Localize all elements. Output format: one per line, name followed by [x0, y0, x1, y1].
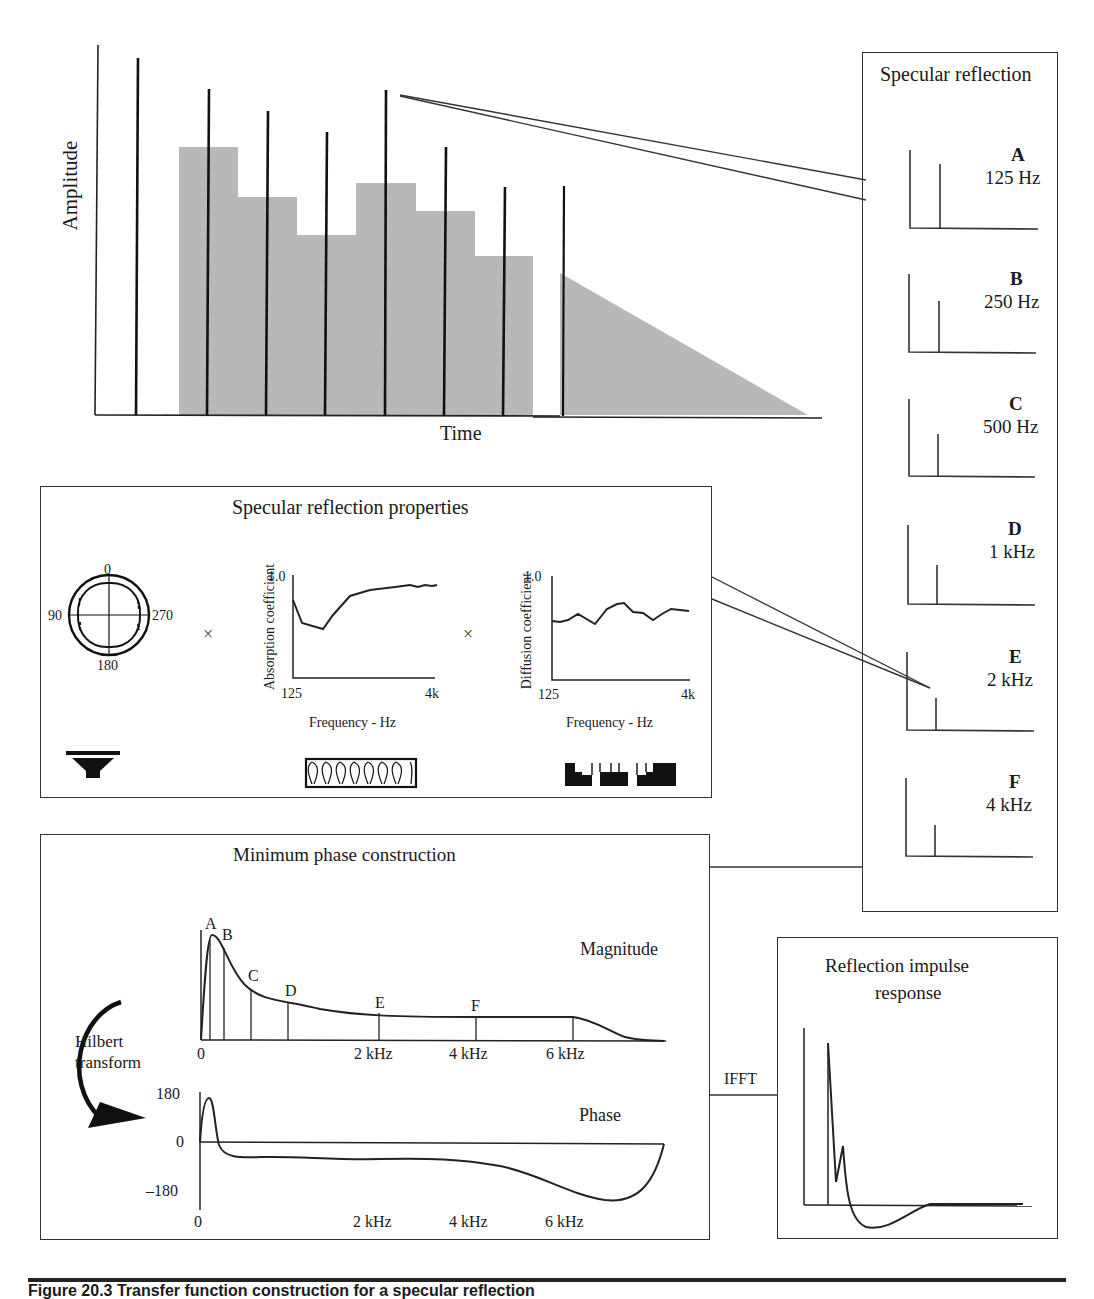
diffusion-x-max: 4k [681, 688, 695, 702]
polar-label-180: 180 [97, 659, 118, 673]
absorption-x-min: 125 [281, 687, 302, 701]
band-freq-e: 2 kHz [987, 670, 1033, 689]
marker-c: C [248, 968, 259, 984]
marker-d: D [285, 983, 297, 999]
phase-tick-6k: 6 kHz [545, 1214, 584, 1230]
multiply-sign-2: × [463, 625, 473, 643]
phase-tick-2k: 2 kHz [353, 1214, 392, 1230]
band-letter-e: E [1009, 647, 1022, 666]
band-freq-b: 250 Hz [984, 292, 1039, 311]
magnitude-label: Magnitude [580, 940, 658, 958]
phase-y-180: 180 [156, 1086, 180, 1102]
energy-envelope [179, 147, 533, 415]
mag-tick-2k: 2 kHz [354, 1046, 393, 1062]
absorption-x-max: 4k [425, 687, 439, 701]
phase-tick-0: 0 [194, 1214, 202, 1230]
mag-tick-0: 0 [197, 1046, 205, 1062]
band-freq-c: 500 Hz [983, 417, 1038, 436]
zoom-connector [400, 95, 866, 200]
hilbert-label-1: Hilbert [75, 1033, 123, 1050]
specular-properties-panel [40, 486, 712, 798]
marker-a: A [205, 916, 217, 932]
band-letter-b: B [1010, 269, 1023, 288]
time-plot [95, 45, 822, 418]
properties-title: Specular reflection properties [232, 495, 469, 519]
polar-label-90: 90 [48, 609, 62, 623]
band-freq-d: 1 kHz [989, 542, 1035, 561]
hilbert-label-2: transform [75, 1054, 141, 1071]
ifft-label: IFFT [724, 1071, 757, 1087]
phase-y-0: 0 [176, 1134, 184, 1150]
band-freq-f: 4 kHz [986, 795, 1032, 814]
diffusion-y-max: 1.0 [524, 570, 542, 584]
marker-f: F [471, 998, 480, 1014]
specular-reflection-title: Specular reflection [880, 62, 1032, 86]
band-letter-c: C [1009, 394, 1023, 413]
phase-y-neg180: –180 [146, 1183, 178, 1199]
absorption-y-max: 1.0 [268, 570, 286, 584]
impulse-response-title-1: Reflection impulse [825, 955, 969, 978]
phase-label: Phase [579, 1106, 621, 1124]
band-freq-a: 125 Hz [985, 168, 1040, 187]
band-letter-a: A [1011, 145, 1025, 164]
absorption-x-label: Frequency - Hz [309, 716, 396, 730]
polar-label-270: 270 [152, 609, 173, 623]
amplitude-axis-label: Amplitude [60, 136, 81, 236]
impulse-response-title-2: response [875, 982, 941, 1005]
phase-tick-4k: 4 kHz [449, 1214, 488, 1230]
marker-e: E [375, 995, 385, 1011]
minimum-phase-title: Minimum phase construction [233, 844, 456, 867]
time-axis-label: Time [440, 423, 482, 443]
multiply-sign-1: × [203, 625, 213, 643]
mag-tick-6k: 6 kHz [546, 1046, 585, 1062]
band-letter-d: D [1008, 519, 1022, 538]
diffusion-x-label: Frequency - Hz [566, 716, 653, 730]
minimum-phase-panel [40, 834, 710, 1240]
band-letter-f: F [1009, 772, 1021, 791]
mag-tick-4k: 4 kHz [449, 1046, 488, 1062]
figure-caption: Figure 20.3 Transfer function constructi… [28, 1283, 535, 1299]
polar-label-0: 0 [104, 563, 111, 577]
diffusion-x-min: 125 [538, 688, 559, 702]
reverb-tail [560, 273, 808, 415]
marker-b: B [222, 927, 233, 943]
